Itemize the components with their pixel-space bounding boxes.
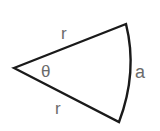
sector-diagram: r θ r a (0, 0, 160, 131)
sector-svg: r θ r a (0, 0, 160, 131)
label-radius-bottom: r (55, 99, 61, 118)
label-arc-length: a (135, 62, 146, 82)
sector-outline (14, 24, 131, 122)
label-radius-top: r (61, 24, 67, 43)
label-angle-theta: θ (41, 62, 50, 81)
